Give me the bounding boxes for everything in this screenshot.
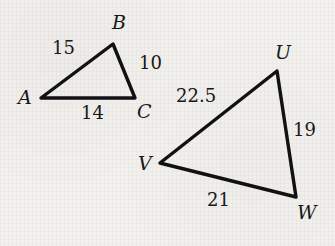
side-label-bc: 10 (139, 54, 162, 72)
vertex-label-v: V (138, 154, 152, 173)
vertex-label-c: C (137, 102, 152, 121)
side-label-ab: 15 (52, 39, 75, 57)
side-label-vw: 21 (207, 191, 230, 209)
side-label-ac: 14 (81, 104, 104, 122)
figure-canvas: A B C 15 10 14 U V W 22.5 19 21 (0, 0, 335, 246)
vertex-label-u: U (275, 43, 291, 62)
side-label-uw: 19 (293, 121, 316, 139)
vertex-label-w: W (297, 203, 317, 222)
triangles-svg (0, 0, 335, 246)
vertex-label-a: A (18, 88, 32, 107)
side-label-vu: 22.5 (176, 87, 216, 105)
vertex-label-b: B (112, 13, 126, 32)
